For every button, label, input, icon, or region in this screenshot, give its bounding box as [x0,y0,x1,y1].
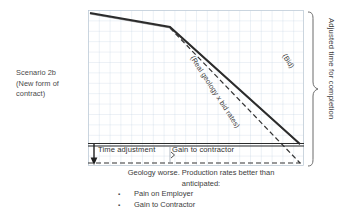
bullet-list: ▪ Pain on Employer ▪ Gain to Contractor [118,189,298,210]
caption-block: Geology worse. Production rates better t… [96,168,306,189]
grid-lines [89,11,304,166]
bullet-text: Pain on Employer [134,189,298,200]
chart-area: (Real geology x bid rates) (Bid) [88,10,304,166]
bullet-dot-icon: ▪ [118,200,134,211]
scenario-line-1: Scenario 2b [16,68,56,77]
bullet-text: Gain to Contractor [134,200,298,211]
diagram-canvas: Scenario 2b (New form of contract) [0,0,348,212]
chart-svg [88,10,304,166]
caption-line-2: anticipated: [96,179,306,190]
list-item: ▪ Pain on Employer [118,189,298,200]
y-axis-label: Adjusted time for completion [322,18,336,119]
axis-brace-icon [306,10,320,168]
scenario-line-3: contract) [16,89,45,98]
annotation-time-adjustment: Time adjustment [98,145,155,154]
bullet-dot-icon: ▪ [118,189,134,200]
caption-line-1: Geology worse. Production rates better t… [128,168,275,177]
annotation-gain-to-contractor: Gain to contractor [172,145,234,154]
scenario-label: Scenario 2b (New form of contract) [16,68,88,100]
scenario-line-2: (New form of [16,79,59,88]
list-item: ▪ Gain to Contractor [118,200,298,211]
